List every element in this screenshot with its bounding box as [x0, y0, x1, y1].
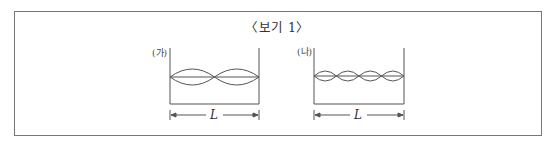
arrow-right-ga: [253, 113, 258, 117]
wave-upper-ga: [170, 69, 259, 77]
wave-lower-ga: [170, 77, 259, 85]
container-walls-ga: [170, 48, 259, 104]
dimension-label-ga: L: [209, 108, 218, 122]
wave-lower-na: [314, 76, 404, 81]
arrow-left-na: [315, 113, 320, 117]
arrow-right-na: [398, 113, 403, 117]
dimension-label-na: L: [353, 108, 362, 122]
wave-upper-na: [314, 71, 404, 76]
arrow-left-ga: [171, 113, 176, 117]
standing-wave-diagrams: L L: [0, 0, 555, 145]
